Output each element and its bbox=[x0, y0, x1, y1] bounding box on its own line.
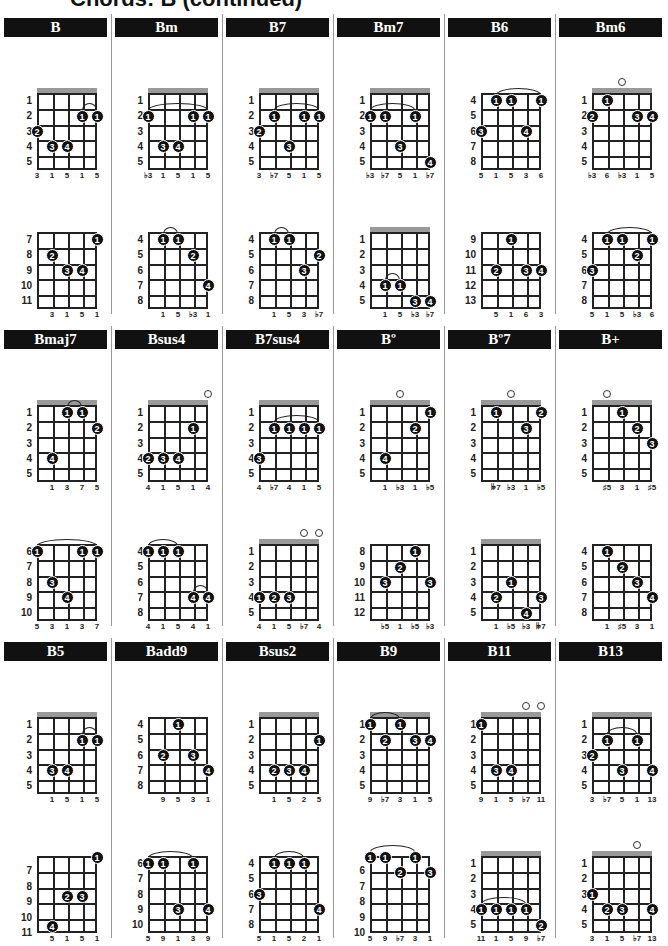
interval-label: 11 bbox=[534, 795, 548, 804]
interval-label: ♭3 bbox=[393, 483, 407, 492]
interval-label: 1 bbox=[60, 310, 74, 319]
chord-diagram: 12345112349♭7315 bbox=[333, 698, 444, 808]
interval-label: 13 bbox=[645, 934, 659, 943]
interval-label: ♭7 bbox=[534, 934, 548, 943]
chord-b13: B1312345112343♭75113123451234315♭713 bbox=[555, 642, 666, 946]
interval-label: 5 bbox=[90, 795, 104, 804]
chord-diagram: 789101112343151 bbox=[0, 213, 111, 323]
fret-line bbox=[261, 749, 317, 751]
finger-dot: 2 bbox=[31, 125, 44, 138]
interval-label: 1 bbox=[201, 622, 215, 631]
interval-label: ♭7 bbox=[297, 622, 311, 631]
open-string-icon bbox=[522, 702, 530, 710]
interval-label: 4 bbox=[141, 622, 155, 631]
finger-dot: 2 bbox=[490, 591, 503, 604]
fret-number: 10 bbox=[343, 577, 365, 588]
interval-label: ♭3 bbox=[141, 171, 155, 180]
finger-dot: 3 bbox=[61, 264, 74, 277]
fret-number: 1 bbox=[343, 95, 365, 106]
fret-number: 5 bbox=[232, 468, 254, 479]
fret-line bbox=[261, 903, 317, 905]
fret-number: 10 bbox=[10, 912, 32, 923]
fret-number: 4 bbox=[454, 453, 476, 464]
fret-line bbox=[150, 764, 206, 766]
fret-number: 7 bbox=[232, 904, 254, 915]
interval-label: 1 bbox=[267, 795, 281, 804]
fret-line bbox=[39, 749, 95, 751]
interval-label: 3 bbox=[297, 310, 311, 319]
finger-dot: 2 bbox=[46, 249, 59, 262]
fretboard-grid bbox=[148, 405, 208, 482]
fret-line bbox=[594, 264, 650, 266]
interval-label: 9 bbox=[378, 934, 392, 943]
finger-dot: 1 bbox=[91, 110, 104, 123]
fret-number: 4 bbox=[565, 453, 587, 464]
fret-number: 4 bbox=[565, 765, 587, 776]
fret-number: 1 bbox=[454, 546, 476, 557]
barre-arc bbox=[607, 727, 637, 734]
open-string-icon bbox=[618, 78, 626, 86]
interval-label: 1 bbox=[156, 622, 170, 631]
fret-line bbox=[594, 468, 650, 470]
finger-dot: 4 bbox=[202, 591, 215, 604]
finger-dot: 2 bbox=[616, 561, 629, 574]
fret-line bbox=[372, 156, 428, 158]
chord-diagram: 1234512341♭5♭3𝄫7 bbox=[444, 525, 555, 635]
fret-number: 7 bbox=[121, 280, 143, 291]
fret-number: 5 bbox=[232, 607, 254, 618]
finger-dot: 1 bbox=[409, 110, 422, 123]
fret-number: 4 bbox=[343, 453, 365, 464]
chord-diagram: 45678112415♭31 bbox=[111, 213, 222, 323]
fret-line bbox=[372, 264, 428, 266]
finger-dot: 1 bbox=[157, 545, 170, 558]
finger-dot: 4 bbox=[646, 110, 659, 123]
finger-dot: 4 bbox=[424, 295, 437, 308]
fret-number: 5 bbox=[565, 780, 587, 791]
fret-number: 3 bbox=[565, 126, 587, 137]
interval-label: 9 bbox=[201, 934, 215, 943]
chord-name: Bm bbox=[115, 18, 218, 37]
finger-dot: 3 bbox=[490, 764, 503, 777]
interval-label: 5 bbox=[645, 171, 659, 180]
finger-dot: 1 bbox=[601, 545, 614, 558]
fret-line bbox=[39, 607, 95, 609]
finger-dot: 3 bbox=[409, 295, 422, 308]
fret-number: 5 bbox=[565, 249, 587, 260]
finger-dot: 4 bbox=[202, 903, 215, 916]
fret-line bbox=[483, 872, 539, 874]
fret-number: 4 bbox=[121, 453, 143, 464]
chord-name: B7 bbox=[226, 18, 329, 37]
chord-diagram: 4567811123515♭36 bbox=[555, 213, 666, 323]
open-string-icon bbox=[537, 702, 545, 710]
interval-label: 5 bbox=[201, 171, 215, 180]
finger-dot: 3 bbox=[157, 452, 170, 465]
fret-number: 2 bbox=[10, 734, 32, 745]
interval-label: 5 bbox=[363, 934, 377, 943]
finger-dot: 4 bbox=[46, 452, 59, 465]
finger-dot: 3 bbox=[520, 422, 533, 435]
fret-number: 1 bbox=[232, 546, 254, 557]
fret-number: 6 bbox=[565, 265, 587, 276]
chord-name: B5 bbox=[4, 642, 107, 661]
finger-dot: 2 bbox=[394, 561, 407, 574]
fret-number: 8 bbox=[343, 546, 365, 557]
fret-number: 2 bbox=[343, 110, 365, 121]
fret-line bbox=[150, 156, 206, 158]
finger-dot: 1 bbox=[298, 422, 311, 435]
interval-label: 1 bbox=[600, 310, 614, 319]
interval-label: 5 bbox=[171, 622, 185, 631]
fret-number: 3 bbox=[565, 438, 587, 449]
finger-dot: 4 bbox=[520, 125, 533, 138]
fret-number: 1 bbox=[10, 719, 32, 730]
fret-number: 4 bbox=[454, 592, 476, 603]
finger-dot: 3 bbox=[475, 125, 488, 138]
chord-diagram: 12345113415♭3♭7 bbox=[333, 213, 444, 323]
interval-label: 7 bbox=[75, 483, 89, 492]
fret-line bbox=[483, 780, 539, 782]
fret-line bbox=[150, 468, 206, 470]
interval-label: 9 bbox=[156, 795, 170, 804]
fret-line bbox=[39, 125, 95, 127]
chord-diagram: 1234511134♭31515 bbox=[111, 74, 222, 184]
finger-dot: 1 bbox=[76, 406, 89, 419]
interval-label: ♭7 bbox=[519, 795, 533, 804]
